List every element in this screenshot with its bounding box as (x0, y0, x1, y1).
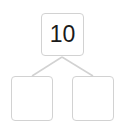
whole-box: 10 (41, 13, 84, 56)
part-box-left[interactable] (11, 76, 53, 121)
part-box-right[interactable] (72, 76, 114, 121)
whole-value: 10 (50, 21, 76, 48)
